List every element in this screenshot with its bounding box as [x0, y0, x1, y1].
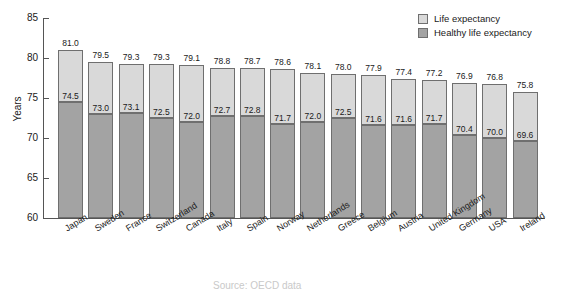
bar-group: 78.872.7 — [210, 68, 235, 218]
y-tick-80 — [43, 58, 49, 59]
y-tick-label-85: 85 — [0, 13, 38, 23]
bar-group: 79.373.1 — [119, 64, 144, 218]
bar-group: 79.372.5 — [149, 64, 174, 218]
bar-segment-healthy-life-expectancy — [361, 125, 386, 218]
bar-segment-healthy-life-expectancy — [240, 116, 265, 218]
y-tick-65 — [43, 178, 49, 179]
y-axis-title: Years — [13, 79, 23, 139]
bar-group: 81.074.5 — [58, 50, 83, 218]
bar-value-healthy-life-expectancy: 71.7 — [270, 114, 295, 123]
bar-group: 78.172.0 — [300, 73, 325, 218]
bar-segment-healthy-life-expectancy — [422, 124, 447, 218]
bar-value-healthy-life-expectancy: 72.7 — [210, 106, 235, 115]
bar-value-healthy-life-expectancy: 72.0 — [300, 112, 325, 121]
legend-item: Life expectancy — [418, 14, 532, 24]
bar-value-healthy-life-expectancy: 71.7 — [422, 114, 447, 123]
bar-value-healthy-life-expectancy: 74.5 — [58, 92, 83, 101]
y-tick-70 — [43, 138, 49, 139]
bar-value-healthy-life-expectancy: 72.8 — [240, 106, 265, 115]
bar-value-healthy-life-expectancy: 72.5 — [331, 108, 356, 117]
y-tick-label-75: 75 — [0, 93, 38, 103]
legend-swatch-icon — [418, 28, 428, 38]
bar-value-life-expectancy: 75.8 — [507, 81, 544, 90]
bar-group: 77.471.6 — [391, 79, 416, 218]
bar-value-healthy-life-expectancy: 71.6 — [361, 115, 386, 124]
bar-group: 79.172.0 — [179, 65, 204, 218]
bar-segment-healthy-life-expectancy — [58, 102, 83, 218]
bar-group: 77.271.7 — [422, 80, 447, 218]
bar-group: 78.072.5 — [331, 74, 356, 218]
bar-value-healthy-life-expectancy: 73.1 — [119, 103, 144, 112]
legend-label: Healthy life expectancy — [434, 28, 532, 38]
bar-segment-healthy-life-expectancy — [513, 141, 538, 218]
legend-item: Healthy life expectancy — [418, 28, 532, 38]
bar-value-healthy-life-expectancy: 73.0 — [88, 104, 113, 113]
legend-label: Life expectancy — [434, 14, 500, 24]
bar-segment-healthy-life-expectancy — [210, 116, 235, 218]
bar-group: 77.971.6 — [361, 75, 386, 218]
x-axis-labels: JapanSwedenFranceSwitzerlandCanadaItalyS… — [0, 221, 565, 287]
bar-value-life-expectancy: 81.0 — [52, 39, 89, 48]
bar-segment-healthy-life-expectancy — [119, 113, 144, 218]
bar-group: 75.869.6 — [513, 92, 538, 218]
source-caption: Source: OECD data — [213, 280, 301, 291]
y-tick-label-70: 70 — [0, 133, 38, 143]
bar-segment-healthy-life-expectancy — [300, 122, 325, 218]
bar-value-healthy-life-expectancy: 69.6 — [513, 131, 538, 140]
legend-swatch-icon — [418, 14, 428, 24]
y-tick-label-80: 80 — [0, 53, 38, 63]
y-tick-85 — [43, 18, 49, 19]
bar-group: 78.671.7 — [270, 69, 295, 218]
bar-segment-healthy-life-expectancy — [391, 125, 416, 218]
bar-value-healthy-life-expectancy: 70.0 — [482, 128, 507, 137]
bar-value-healthy-life-expectancy: 72.5 — [149, 108, 174, 117]
bar-value-healthy-life-expectancy: 72.0 — [179, 112, 204, 121]
y-tick-75 — [43, 98, 49, 99]
chart-legend: Life expectancyHealthy life expectancy — [418, 14, 532, 42]
bar-value-healthy-life-expectancy: 71.6 — [391, 115, 416, 124]
bar-segment-healthy-life-expectancy — [88, 114, 113, 218]
bar-value-healthy-life-expectancy: 70.4 — [452, 125, 477, 134]
bar-segment-healthy-life-expectancy — [270, 124, 295, 218]
y-tick-label-65: 65 — [0, 173, 38, 183]
y-axis-line — [43, 18, 44, 218]
bar-segment-healthy-life-expectancy — [149, 118, 174, 218]
bar-group: 78.772.8 — [240, 68, 265, 218]
bar-group: 79.573.0 — [88, 62, 113, 218]
